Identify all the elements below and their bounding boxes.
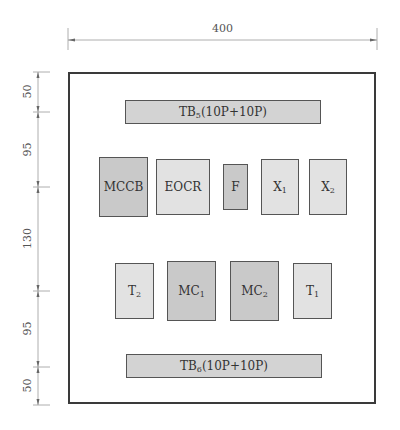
dim-label-middle-gap: 130 xyxy=(21,228,34,249)
contactor-mc2-label: MC2 xyxy=(241,284,268,299)
relay-x2-box: X2 xyxy=(309,159,347,215)
eocr-box: EOCR xyxy=(156,159,210,215)
timer-t1-box: T1 xyxy=(293,263,332,319)
contactor-mc1-label: MC1 xyxy=(178,284,205,299)
timer-t2-label: T2 xyxy=(128,284,141,299)
terminal-block-tb6: TB6(10P+10P) xyxy=(126,354,322,378)
contactor-mc1-box: MC1 xyxy=(167,261,216,321)
tb6-label: TB6(10P+10P) xyxy=(180,359,268,374)
relay-x1-box: X1 xyxy=(261,159,299,215)
width-dimension-label: 400 xyxy=(212,22,233,35)
dim-label-row2-gap: 95 xyxy=(21,322,34,336)
terminal-block-tb5: TB5(10P+10P) xyxy=(125,100,321,124)
dim-label-bottom-margin: 50 xyxy=(21,379,34,393)
contactor-mc2-box: MC2 xyxy=(230,261,279,321)
relay-x1-label: X1 xyxy=(273,180,287,195)
eocr-label: EOCR xyxy=(165,180,202,194)
fuse-box: F xyxy=(223,164,248,210)
mccb-box: MCCB xyxy=(99,157,148,217)
tb5-label: TB5(10P+10P) xyxy=(179,105,267,120)
relay-x2-label: X2 xyxy=(321,180,335,195)
mccb-label: MCCB xyxy=(104,180,143,194)
dim-label-row1-gap: 95 xyxy=(21,143,34,157)
dim-label-top-margin: 50 xyxy=(21,85,34,99)
timer-t2-box: T2 xyxy=(115,263,154,319)
fuse-label: F xyxy=(231,180,239,194)
timer-t1-label: T1 xyxy=(306,284,319,299)
